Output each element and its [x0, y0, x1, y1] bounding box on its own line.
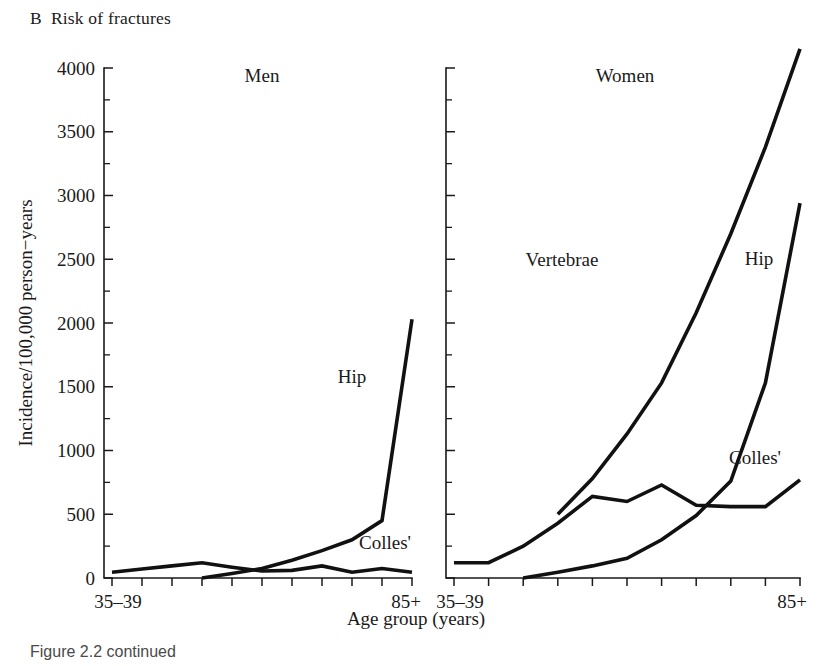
series-label-men-hip: Hip — [338, 366, 367, 387]
left-axis-spine — [104, 68, 412, 578]
panel-title-women: Women — [596, 65, 655, 86]
series-label-women-hip: Hip — [745, 248, 774, 269]
y-tick-label: 500 — [67, 504, 96, 525]
series-label-women-colles: Colles' — [729, 447, 781, 468]
y-tick-label: 2000 — [57, 313, 95, 334]
y-tick-label: 1000 — [57, 440, 95, 461]
x-label-left-start: 35–39 — [94, 591, 142, 612]
figure-caption: Figure 2.2 continued — [30, 643, 176, 661]
y-tick-label: 2500 — [57, 249, 95, 270]
series-colles-line — [454, 480, 800, 563]
series-label-men-colles: Colles' — [359, 532, 411, 553]
y-tick-label: 3000 — [57, 185, 95, 206]
y-axis: 0500100015002000250030003500400035–3985+… — [57, 58, 807, 613]
series-label-women-vertebrae: Vertebrae — [526, 249, 599, 270]
panel-title-men: Men — [245, 65, 280, 86]
series-vertebrae-line — [558, 49, 800, 514]
x-label-right-end: 85+ — [777, 591, 807, 612]
y-axis-title: Incidence/100,000 person−years — [15, 199, 36, 446]
figure-container: BRisk of fractures 050010001500200025003… — [0, 0, 834, 666]
fracture-risk-chart: 0500100015002000250030003500400035–3985+… — [0, 0, 834, 666]
y-tick-label: 0 — [86, 568, 96, 589]
y-tick-label: 1500 — [57, 376, 95, 397]
women-panel — [454, 49, 800, 578]
x-axis-title: Age group (years) — [347, 608, 485, 630]
chart-annotations: Incidence/100,000 person−yearsAge group … — [15, 65, 781, 630]
y-tick-label: 3500 — [57, 121, 95, 142]
y-tick-label: 4000 — [57, 58, 95, 79]
